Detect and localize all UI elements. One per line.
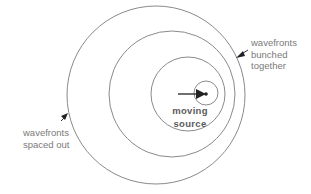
label-line: wavefronts bbox=[23, 127, 69, 139]
label-line: moving bbox=[160, 105, 220, 118]
label-line: together bbox=[251, 60, 297, 72]
label-line: bunched bbox=[251, 49, 297, 61]
label-line: spaced out bbox=[23, 139, 69, 151]
pointer-arrow-bunched-icon bbox=[236, 50, 248, 58]
label-moving-source: moving source bbox=[160, 105, 220, 130]
wavefront-second bbox=[109, 31, 235, 157]
label-line: source bbox=[160, 118, 220, 131]
label-spaced-out: wavefronts spaced out bbox=[23, 127, 69, 150]
label-bunched-together: wavefronts bunched together bbox=[251, 37, 297, 72]
motion-arrow-icon bbox=[178, 89, 208, 99]
pointer-arrow-spaced-icon bbox=[61, 113, 68, 121]
label-line: wavefronts bbox=[251, 37, 297, 49]
wavefront-diagram bbox=[0, 0, 311, 194]
